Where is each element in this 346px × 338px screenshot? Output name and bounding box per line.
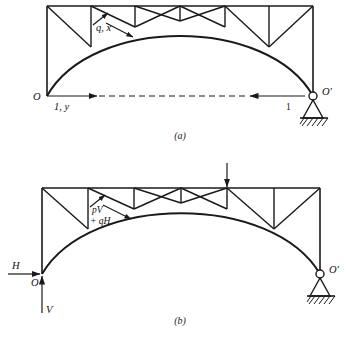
web-verticals-a	[91, 6, 269, 47]
panel-a-diagram: q, x 1, y 1 O	[0, 0, 346, 150]
support-right-a	[300, 92, 328, 126]
unit-load-left-label-a: 1, y	[54, 101, 70, 112]
origin-label-b: O	[31, 277, 39, 288]
member-load-label-a: q, x	[96, 22, 112, 33]
ground-hatching-a	[300, 118, 328, 126]
ground-hatching-b	[307, 296, 335, 304]
support-right-b	[307, 270, 335, 304]
arch-chord-a	[47, 36, 313, 96]
figure-root: q, x 1, y 1 O	[0, 0, 346, 338]
origin-right-label-b: O'	[329, 264, 340, 275]
unit-load-right-label-a: 1	[286, 102, 291, 112]
member-load-label-b-line1: pV	[91, 205, 104, 215]
member-load-label-b-line2: + qH	[90, 216, 112, 226]
origin-label-a: O	[33, 91, 41, 102]
origin-right-label-a: O'	[322, 86, 333, 97]
vertical-reaction-label-b: V	[46, 304, 54, 315]
panel-a-caption: (a)	[160, 130, 200, 141]
panel-b-diagram: pV + qH F H V O	[0, 163, 346, 338]
panel-b-caption: (b)	[160, 315, 200, 326]
horizontal-reaction-label-b: H	[11, 260, 21, 271]
arch-chord-b	[42, 213, 320, 274]
